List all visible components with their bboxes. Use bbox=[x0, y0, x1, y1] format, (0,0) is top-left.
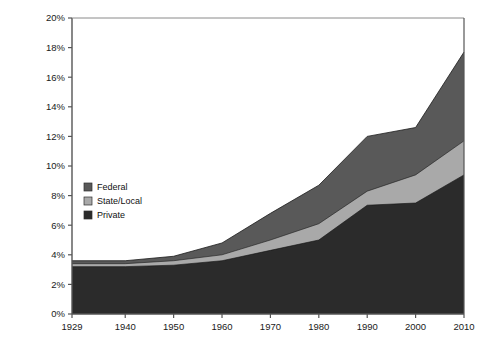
x-tick-label: 1960 bbox=[211, 321, 232, 332]
x-tick-label: 1990 bbox=[357, 321, 378, 332]
legend-swatch-federal-icon bbox=[84, 183, 92, 191]
y-tick-label: 14% bbox=[46, 101, 66, 112]
y-tick-label: 0% bbox=[51, 308, 65, 319]
y-axis-ticks: 0%2%4%6%8%10%12%14%16%18%20% bbox=[46, 12, 72, 319]
y-tick-label: 18% bbox=[46, 42, 66, 53]
x-tick-label: 1929 bbox=[61, 321, 82, 332]
x-tick-label: 1940 bbox=[115, 321, 136, 332]
y-tick-label: 10% bbox=[46, 160, 66, 171]
legend-label: State/Local bbox=[97, 196, 142, 206]
legend-swatch-private-icon bbox=[84, 211, 92, 219]
x-tick-label: 2010 bbox=[453, 321, 474, 332]
stacked-area-chart: 0%2%4%6%8%10%12%14%16%18%20% 19291940195… bbox=[0, 0, 482, 344]
x-tick-label: 1970 bbox=[260, 321, 281, 332]
y-tick-label: 6% bbox=[51, 220, 65, 231]
y-tick-label: 2% bbox=[51, 279, 65, 290]
chart-container: 0%2%4%6%8%10%12%14%16%18%20% 19291940195… bbox=[0, 0, 482, 344]
x-tick-label: 1980 bbox=[308, 321, 329, 332]
y-tick-label: 4% bbox=[51, 249, 65, 260]
legend-label: Private bbox=[97, 210, 125, 220]
x-axis-ticks: 192919401950196019701980199020002010 bbox=[61, 314, 474, 332]
y-tick-label: 12% bbox=[46, 131, 66, 142]
y-tick-label: 16% bbox=[46, 72, 66, 83]
x-tick-label: 2000 bbox=[405, 321, 426, 332]
y-tick-label: 20% bbox=[46, 12, 66, 23]
y-tick-label: 8% bbox=[51, 190, 65, 201]
legend-label: Federal bbox=[97, 182, 128, 192]
x-tick-label: 1950 bbox=[163, 321, 184, 332]
legend-swatch-state-local-icon bbox=[84, 197, 92, 205]
